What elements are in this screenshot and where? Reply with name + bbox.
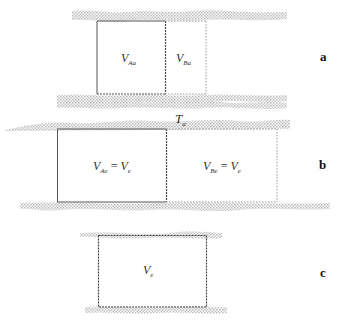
panel-letter-b: b (319, 158, 326, 171)
wall-band-bottom-b (20, 202, 330, 211)
label-v-be-equals-v-e: VBe = Ve (203, 160, 241, 175)
label-v-ae-equals-v-e: VAe = Ve (93, 160, 131, 175)
panel-b-boxes (57, 129, 277, 202)
label-v-ba: VBa (176, 52, 191, 67)
panel-letter-c: c (320, 266, 326, 279)
panel-letter-a: a (320, 50, 327, 63)
wall-band-top-b-outer (57, 101, 287, 109)
diagram-canvas (0, 0, 339, 324)
label-t-a: Ta (175, 112, 186, 128)
wall-band-top-a (72, 10, 287, 21)
label-v-aa: VAa (121, 52, 136, 67)
label-v-e: Ve (143, 264, 153, 279)
